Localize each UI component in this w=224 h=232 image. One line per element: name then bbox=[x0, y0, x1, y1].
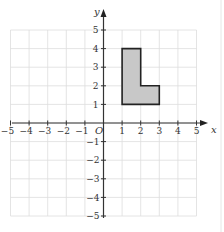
y-tick-label: 2 bbox=[93, 81, 99, 91]
y-tick-label: −3 bbox=[86, 174, 100, 184]
origin-label: O bbox=[95, 125, 103, 136]
y-tick-label: −5 bbox=[86, 211, 100, 221]
x-tick-label: −5 bbox=[1, 126, 15, 136]
x-tick-label: 1 bbox=[119, 126, 125, 136]
coordinate-plane: −5−4−3−2−11234512345−1−2−3−4−5 x y O bbox=[0, 0, 224, 232]
x-tick-label: 4 bbox=[175, 126, 181, 136]
x-axis-label: x bbox=[211, 124, 217, 135]
axes bbox=[11, 9, 209, 218]
y-tick-label: 1 bbox=[93, 100, 99, 110]
x-axis-arrow-icon bbox=[200, 120, 208, 126]
l-shape bbox=[122, 49, 159, 105]
y-tick-label: 3 bbox=[93, 62, 99, 72]
l-shape-polygon bbox=[122, 49, 159, 105]
y-tick-label: −2 bbox=[86, 155, 99, 165]
y-tick-label: 5 bbox=[93, 25, 99, 35]
y-tick-label: −4 bbox=[86, 193, 100, 203]
x-tick-label: −3 bbox=[38, 126, 52, 136]
y-tick-label: −1 bbox=[86, 137, 99, 147]
x-tick-label: 5 bbox=[194, 126, 200, 136]
x-tick-label: 2 bbox=[138, 126, 144, 136]
x-tick-label: −1 bbox=[75, 126, 88, 136]
y-axis-arrow-icon bbox=[101, 9, 107, 17]
x-tick-label: −2 bbox=[57, 126, 70, 136]
x-tick-label: −4 bbox=[19, 126, 33, 136]
x-tick-label: 3 bbox=[156, 126, 162, 136]
y-tick-label: 4 bbox=[93, 44, 99, 54]
y-axis-label: y bbox=[93, 6, 100, 17]
